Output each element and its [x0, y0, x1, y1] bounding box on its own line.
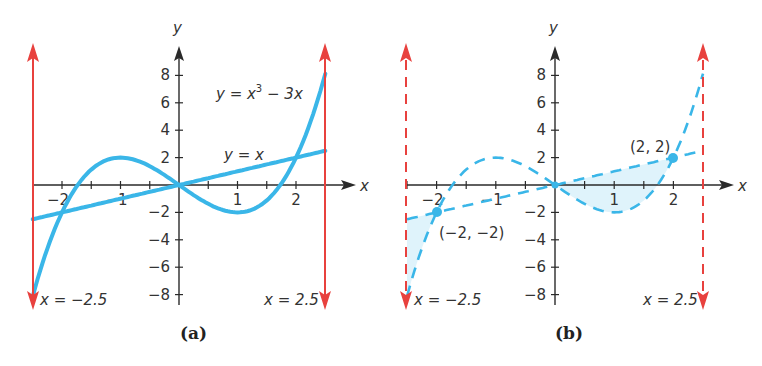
y-tick-label: −8	[524, 286, 546, 304]
y-tick-label: −6	[148, 258, 170, 276]
figure: x y −2−112 8642−2−4−6−8 y = x3 − 3x y = …	[0, 0, 762, 366]
arrow-up-icon	[400, 43, 412, 62]
intersection-point-origin	[552, 182, 559, 189]
x-tick-label: 2	[669, 191, 679, 209]
y-tick-label: 8	[536, 66, 546, 84]
intersection-point-left	[432, 207, 442, 217]
y-tick-label: −2	[524, 203, 546, 221]
y-tick-label: −4	[524, 231, 546, 249]
left-boundary-label: x = −2.5	[413, 291, 481, 309]
x-tick-label: 2	[291, 191, 301, 209]
arrow-down-icon	[400, 291, 412, 310]
y-tick-label: −4	[148, 231, 170, 249]
left-boundary-label: x = −2.5	[39, 291, 107, 309]
point-label-right: (2, 2)	[630, 138, 670, 156]
shaded-area	[407, 212, 437, 296]
panel-a: x y −2−112 8642−2−4−6−8 y = x3 − 3x y = …	[27, 19, 369, 343]
y-tick-label: 2	[536, 149, 546, 167]
x-tick-label: 1	[609, 191, 619, 209]
y-tick-label: 2	[160, 149, 170, 167]
y-tick-label: 6	[160, 94, 170, 112]
right-boundary-label: x = 2.5	[263, 291, 319, 309]
y-tick-label: −6	[524, 258, 546, 276]
y-axis-label: y	[548, 19, 559, 37]
y-tick-label: −8	[148, 286, 170, 304]
right-boundary-label: x = 2.5	[642, 291, 698, 309]
x-axis-label: x	[359, 177, 369, 195]
panel-b: x y −2−112 8642−2−4−6−8 (−2, −2) (2, 2) …	[400, 19, 747, 343]
x-axis-label: x	[737, 177, 747, 195]
panel-caption: (b)	[555, 323, 583, 343]
y-tick-label: 4	[536, 121, 546, 139]
arrow-down-icon	[697, 291, 709, 310]
cubic-equation-label: y = x3 − 3x	[215, 83, 303, 103]
linear-equation-label: y = x	[223, 146, 264, 164]
y-tick-label: 4	[160, 121, 170, 139]
y-tick-label: 8	[160, 66, 170, 84]
point-label-left: (−2, −2)	[439, 224, 504, 242]
y-tick-label: 6	[536, 94, 546, 112]
panel-caption: (a)	[180, 323, 207, 343]
y-axis-label: y	[172, 19, 183, 37]
y-tick-label: −2	[148, 203, 170, 221]
x-tick-label: 1	[233, 191, 243, 209]
arrow-up-icon	[697, 43, 709, 62]
